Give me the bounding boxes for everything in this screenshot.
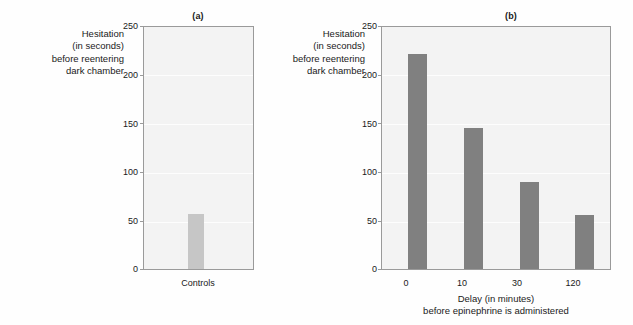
bar-delay-10 — [464, 128, 483, 270]
bar-delay-0 — [408, 54, 427, 269]
panel-b-y-axis-label-line-2: (in seconds) — [261, 40, 365, 52]
panel-a-title: (a) — [163, 11, 233, 21]
panel-a-plot-area — [143, 26, 254, 270]
panel-b-x-axis-label-line-2: before epinephrine is administered — [366, 305, 626, 317]
panel-a-y-axis-label-line-1: Hesitation — [20, 28, 124, 40]
panel-a-ytick-0: 0 — [110, 264, 138, 274]
panel-b-ytick-0: 0 — [349, 264, 377, 274]
panel-b: (b) Hesitation (in seconds) before reent… — [260, 0, 633, 325]
panel-a-ytick-100: 100 — [110, 167, 138, 177]
panel-a-ytick-50: 50 — [110, 216, 138, 226]
figure-two-panel-bar-charts: (a) Hesitation (in seconds) before reent… — [0, 0, 633, 325]
panel-a-y-axis-label-line-3: before reentering — [20, 53, 124, 65]
panel-a-ytick-150: 150 — [110, 119, 138, 129]
panel-b-ytick-200: 200 — [349, 70, 377, 80]
bar-controls — [188, 214, 204, 269]
panel-a-gridline-150 — [144, 124, 253, 125]
panel-b-ytick-50: 50 — [349, 216, 377, 226]
panel-a-ytick-200: 200 — [110, 70, 138, 80]
panel-b-x-axis-label-line-1: Delay (in minutes) — [366, 293, 626, 305]
panel-a-y-axis-label-line-4: dark chamber — [20, 65, 124, 77]
panel-b-xtick-10: 10 — [441, 278, 483, 288]
bar-delay-120 — [575, 215, 594, 269]
panel-b-plot-area — [381, 26, 611, 270]
panel-b-ytick-150: 150 — [349, 119, 377, 129]
panel-a: (a) Hesitation (in seconds) before reent… — [0, 0, 300, 325]
panel-b-x-axis-label: Delay (in minutes) before epinephrine is… — [366, 293, 626, 318]
panel-a-y-axis-label: Hesitation (in seconds) before reenterin… — [20, 28, 124, 77]
panel-b-xtick-0: 0 — [385, 278, 427, 288]
panel-a-gridline-200 — [144, 75, 253, 76]
panel-a-gridline-100 — [144, 173, 253, 174]
panel-a-xtick-controls: Controls — [163, 278, 233, 288]
panel-b-xtick-120: 120 — [552, 278, 594, 288]
panel-b-xtick-30: 30 — [496, 278, 538, 288]
bar-delay-30 — [520, 182, 539, 269]
panel-a-ytick-250: 250 — [110, 21, 138, 31]
panel-b-ytick-250: 250 — [349, 21, 377, 31]
panel-b-y-axis-label-line-3: before reentering — [261, 53, 365, 65]
panel-b-title: (b) — [381, 11, 633, 21]
panel-b-ytick-100: 100 — [349, 167, 377, 177]
panel-a-y-axis-label-line-2: (in seconds) — [20, 40, 124, 52]
